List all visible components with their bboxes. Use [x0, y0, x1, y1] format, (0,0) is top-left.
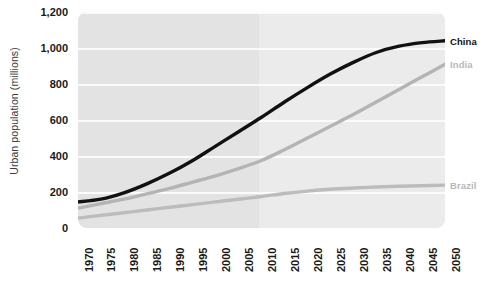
series-label-india: India [450, 59, 473, 70]
x-axis-tick-label: 1995 [197, 248, 209, 272]
x-axis-tick-label: 2045 [427, 248, 439, 272]
urban-population-line-chart: Urban population (millions) 020040060080… [0, 0, 483, 283]
x-axis-tick-label: 2035 [381, 248, 393, 272]
x-axis-tick-label: 2005 [243, 248, 255, 272]
x-axis-tick-label: 1980 [128, 248, 140, 272]
x-axis-tick-label: 2015 [289, 248, 301, 272]
x-axis-tick-label: 2020 [312, 248, 324, 272]
x-axis-tick-label: 1975 [105, 248, 117, 272]
x-axis-tick-label: 1990 [174, 248, 186, 272]
x-axis-tick-labels: 1970197519801985199019952000200520102015… [0, 0, 483, 283]
x-axis-tick-label: 2025 [335, 248, 347, 272]
x-axis-tick-label: 1970 [83, 248, 95, 272]
series-label-brazil: Brazil [450, 180, 476, 191]
x-axis-tick-label: 2040 [404, 248, 416, 272]
x-axis-tick-label: 2010 [266, 248, 278, 272]
x-axis-tick-label: 2030 [358, 248, 370, 272]
x-axis-tick-label: 2050 [450, 248, 462, 272]
x-axis-tick-label: 2000 [220, 248, 232, 272]
x-axis-tick-label: 1985 [151, 248, 163, 272]
series-label-china: China [450, 36, 477, 47]
